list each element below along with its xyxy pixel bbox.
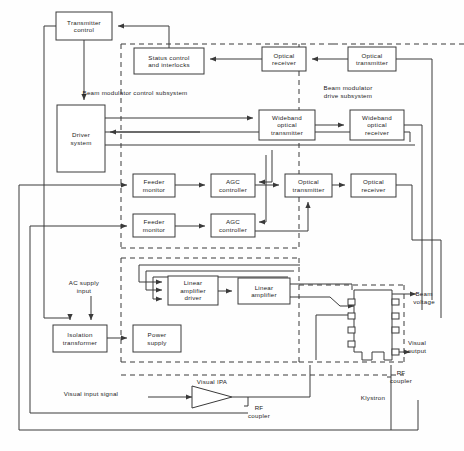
block-label: Optical xyxy=(273,52,294,59)
block-agc-controller-2: AGCcontroller xyxy=(211,214,255,237)
block-label: Linear xyxy=(255,284,274,291)
label-text: Beam xyxy=(415,290,432,297)
label-beam-modulator-control-subsystem: Beam modulator control subsystem xyxy=(83,89,188,96)
label-text: drive subsystem xyxy=(324,92,372,99)
block-label: controller xyxy=(219,226,247,233)
label-text: output xyxy=(408,347,427,354)
label-text: AC supply xyxy=(69,279,100,286)
block-label: and interlocks xyxy=(148,61,190,68)
block-feeder-monitor-1: Feedermonitor xyxy=(133,174,175,197)
block-label: optical xyxy=(367,121,387,128)
label-rf-coupler-klystron: RFcoupler xyxy=(390,369,412,384)
visual-ipa-amplifier xyxy=(192,386,232,408)
block-driver-system: Driversystem xyxy=(57,105,105,172)
label-text: coupler xyxy=(390,377,412,384)
block-label: monitor xyxy=(143,186,165,193)
block-label: optical xyxy=(277,121,297,128)
block-label: amplifier xyxy=(251,291,277,298)
block-transmitter-control: Transmittercontrol xyxy=(56,12,112,40)
block-label: Power xyxy=(148,331,167,338)
block-label: receiver xyxy=(272,59,296,66)
block-linear-amplifier-driver: Linearamplifierdriver xyxy=(168,276,218,305)
block-label: Transmitter xyxy=(67,19,101,26)
label-text: Visual IPA xyxy=(197,378,228,385)
block-agc-controller-1: AGCcontroller xyxy=(211,174,255,197)
block-optical-transmitter-top: Opticaltransmitter xyxy=(348,47,396,71)
block-label: Feeder xyxy=(143,218,164,225)
label-text: RF xyxy=(397,369,406,376)
block-wideband-optical-receiver: Widebandopticalreceiver xyxy=(350,110,404,140)
block-wideband-optical-transmitter: Widebandopticaltransmitter xyxy=(259,110,315,140)
label-ac-supply-input: AC supplyinput xyxy=(69,279,100,294)
block-linear-amplifier: Linearamplifier xyxy=(238,278,290,304)
block-isolation-transformer: Isolationtransformer xyxy=(53,325,107,352)
label-text: Klystron xyxy=(361,394,386,401)
label-text: Visual input signal xyxy=(64,390,119,397)
label-text: Beam modulator control subsystem xyxy=(83,89,188,96)
block-label: monitor xyxy=(143,226,165,233)
block-label: system xyxy=(70,139,91,146)
block-label: Status control xyxy=(148,54,189,61)
label-klystron: Klystron xyxy=(361,394,386,401)
block-label: controller xyxy=(219,186,247,193)
block-label: Isolation xyxy=(67,331,93,338)
block-power-supply: Powersupply xyxy=(133,325,181,352)
block-label: driver xyxy=(185,294,202,301)
block-optical-receiver-top: Opticalreceiver xyxy=(262,47,306,71)
block-label: amplifier xyxy=(180,287,206,294)
block-label: transmitter xyxy=(356,59,388,66)
diagram-svg: TransmittercontrolStatus controland inte… xyxy=(0,0,464,451)
block-feeder-monitor-2: Feedermonitor xyxy=(133,214,175,237)
block-label: Optical xyxy=(361,52,382,59)
block-label: transformer xyxy=(63,339,97,346)
label-visual-input-signal: Visual input signal xyxy=(64,390,119,397)
block-label: Optical xyxy=(363,178,384,185)
block-label: transmitter xyxy=(271,129,303,136)
label-text: RF xyxy=(255,404,264,411)
block-label: control xyxy=(74,26,94,33)
block-label: transmitter xyxy=(293,186,325,193)
block-label: Wideband xyxy=(362,114,392,121)
klystron-tube xyxy=(348,290,399,360)
block-label: receiver xyxy=(361,186,385,193)
block-label: AGC xyxy=(226,218,240,225)
label-rf-coupler-ipa: RFcoupler xyxy=(248,404,270,419)
label-visual-output: Visualoutput xyxy=(408,339,427,354)
block-label: Linear xyxy=(184,279,203,286)
label-text: Visual xyxy=(408,339,426,346)
block-label: Optical xyxy=(298,178,319,185)
block-diagram-canvas: TransmittercontrolStatus controland inte… xyxy=(0,0,464,451)
label-text: coupler xyxy=(248,412,270,419)
label-beam-modulator-drive-subsystem: Beam modulatordrive subsystem xyxy=(324,84,373,99)
block-label: Driver xyxy=(72,131,90,138)
block-label: receiver xyxy=(365,129,389,136)
block-status-control: Status controland interlocks xyxy=(134,48,204,74)
label-text: Beam modulator xyxy=(324,84,373,91)
label-text: voltage xyxy=(413,298,435,305)
block-label: AGC xyxy=(226,178,240,185)
block-optical-transmitter-mid: Opticaltransmitter xyxy=(285,174,332,197)
block-optical-receiver-mid: Opticalreceiver xyxy=(351,174,396,197)
block-label: Feeder xyxy=(143,178,164,185)
block-label: Wideband xyxy=(272,114,302,121)
label-beam-voltage: Beamvoltage xyxy=(413,290,435,305)
label-visual-ipa: Visual IPA xyxy=(197,378,228,385)
block-label: supply xyxy=(147,339,167,346)
label-text: input xyxy=(77,287,92,294)
